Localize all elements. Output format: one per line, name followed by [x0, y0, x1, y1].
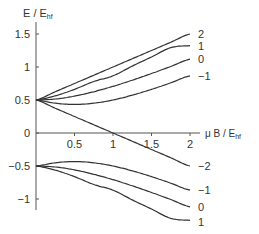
curve-label: −2: [198, 160, 211, 172]
y-tick-label: −1: [17, 193, 30, 205]
curves: [36, 34, 190, 220]
curve-lower-m1: [36, 166, 190, 220]
curve-lower-m−1: [36, 162, 190, 191]
y-tick-label: 1.5: [15, 28, 30, 40]
x-axis-label: μ B / Ehf: [205, 128, 241, 140]
curve-label: −1: [198, 70, 211, 82]
curve-label: −1: [198, 184, 211, 196]
y-tick-label: −0.5: [8, 160, 30, 172]
y-tick-label: 0: [24, 127, 30, 139]
y-tick-label: 0.5: [15, 94, 30, 106]
x-tick-label: 1.5: [144, 138, 159, 150]
y-axis-label: E / Ehf: [23, 7, 53, 20]
breit-rabi-chart: 0.511.521.510.50−0.5−1 210−1−2−101 E / E…: [0, 0, 259, 234]
x-tick-label: 1: [110, 138, 116, 150]
curve-upper-m0: [36, 59, 190, 100]
x-tick-label: 2: [187, 138, 193, 150]
curve-label: 2: [198, 28, 204, 40]
curve-upper-m1: [36, 46, 190, 100]
axes: [36, 22, 200, 210]
curve-label: 0: [198, 53, 204, 65]
y-tick-label: 1: [24, 61, 30, 73]
curve-upper-m2: [36, 34, 190, 100]
x-tick-label: 0.5: [67, 138, 82, 150]
curve-label: 1: [198, 216, 204, 228]
curve-label: 1: [198, 40, 204, 52]
curve-label: 0: [198, 201, 204, 213]
curve-lower-m0: [36, 166, 190, 207]
